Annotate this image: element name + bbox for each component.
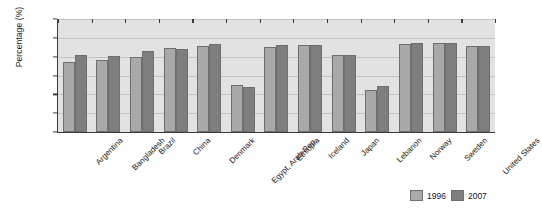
x-axis-label: Argentina <box>94 136 125 167</box>
x-axis-label: Iceland <box>327 136 352 161</box>
legend-swatch-1996 <box>410 190 423 201</box>
x-axis-label: Sweden <box>462 136 489 163</box>
bar-group <box>428 19 462 132</box>
x-axis-tickmark <box>192 19 193 23</box>
x-axis-label: Lebanon <box>396 136 424 164</box>
bar-2007 <box>310 45 322 132</box>
legend-label-1996: 1996 <box>427 191 446 201</box>
bar-2007 <box>276 45 288 132</box>
bar-2007 <box>176 49 188 132</box>
plot-area <box>57 19 495 133</box>
x-axis-label: United States <box>501 136 541 176</box>
legend-label-2007: 2007 <box>468 191 487 201</box>
bar-group <box>461 19 495 132</box>
x-axis-label: Denmark <box>228 136 257 165</box>
bar-groups <box>58 19 495 132</box>
bar-group <box>293 19 327 132</box>
x-axis-tickmark <box>92 19 93 23</box>
bar-1996 <box>264 47 276 132</box>
x-axis-label: Japan <box>359 136 381 158</box>
x-axis-tickmark <box>226 19 227 23</box>
bar-1996 <box>365 90 377 132</box>
bar-1996 <box>298 45 310 132</box>
x-axis-tickmark <box>58 19 59 23</box>
bar-group <box>125 19 159 132</box>
bar-2007 <box>75 55 87 132</box>
x-axis-tickmark <box>260 19 261 23</box>
bar-group <box>226 19 260 132</box>
y-axis-title: Percentage (%) <box>14 0 24 92</box>
bar-group <box>92 19 126 132</box>
bar-2007 <box>243 87 255 132</box>
x-axis-tickmark <box>159 19 160 23</box>
bar-1996 <box>466 46 478 132</box>
x-axis-tickmark <box>394 19 395 23</box>
bar-2007 <box>377 86 389 132</box>
bar-1996 <box>433 43 445 132</box>
bar-group <box>360 19 394 132</box>
x-axis-label: Norway <box>428 136 454 162</box>
x-axis-tickmark <box>327 19 328 23</box>
x-axis-label: China <box>191 136 212 157</box>
bar-1996 <box>63 62 75 132</box>
x-axis-tickmark <box>495 19 496 23</box>
legend-swatch-2007 <box>451 190 464 201</box>
bar-2007 <box>445 43 457 132</box>
bar-group <box>327 19 361 132</box>
bar-1996 <box>197 46 209 132</box>
bar-2007 <box>344 55 356 132</box>
bar-2007 <box>478 46 490 132</box>
bar-2007 <box>142 51 154 132</box>
bar-group <box>58 19 92 132</box>
legend-item-1996: 1996 <box>410 190 446 201</box>
bar-2007 <box>411 43 423 132</box>
bar-2007 <box>108 56 120 132</box>
bar-1996 <box>164 48 176 132</box>
bar-group <box>394 19 428 132</box>
bar-2007 <box>209 44 221 132</box>
bar-group <box>192 19 226 132</box>
bar-1996 <box>332 55 344 132</box>
x-axis-tickmark <box>125 19 126 23</box>
bar-1996 <box>96 60 108 133</box>
x-axis-tickmark <box>361 19 362 23</box>
x-axis-tickmark <box>428 19 429 23</box>
bar-group <box>159 19 193 132</box>
bar-1996 <box>399 44 411 132</box>
x-axis-tickmark <box>293 19 294 23</box>
chart-legend: 1996 2007 <box>410 190 487 201</box>
bar-1996 <box>130 57 142 132</box>
x-axis-tickmark <box>461 19 462 23</box>
bar-group <box>260 19 294 132</box>
bar-1996 <box>231 85 243 132</box>
legend-item-2007: 2007 <box>451 190 487 201</box>
